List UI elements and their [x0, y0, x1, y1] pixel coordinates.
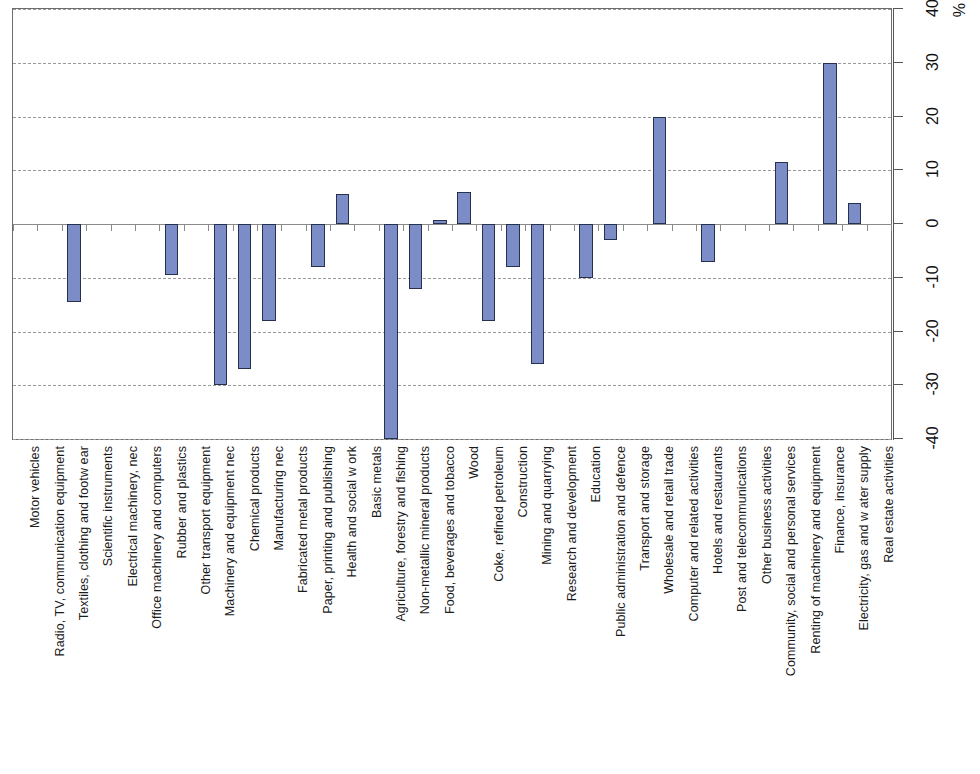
x-axis-tick	[208, 224, 209, 231]
gridline--30	[13, 385, 891, 386]
x-axis-tick	[769, 224, 770, 231]
x-axis-tick	[379, 224, 380, 231]
value-axis-label: 40	[925, 0, 941, 35]
category-label: Construction	[517, 446, 530, 517]
x-axis-tick	[403, 224, 404, 231]
category-label: Computer and related activities	[688, 446, 701, 621]
x-axis-tick	[598, 224, 599, 231]
bar	[384, 224, 397, 439]
category-label: Coke, refined petroleum	[493, 446, 506, 582]
x-axis-tick	[135, 224, 136, 231]
category-label: Other transport equipment	[200, 446, 213, 594]
value-axis-tick	[894, 223, 903, 224]
category-label: Radio, TV, communication equipment	[54, 446, 67, 656]
category-label: Other business activities	[761, 446, 774, 584]
category-label: Hotels and restaurants	[712, 446, 725, 574]
bar	[457, 192, 470, 224]
x-axis-tick	[793, 224, 794, 231]
x-axis-tick	[720, 224, 721, 231]
category-label: Paper, printing and publishing	[322, 446, 335, 614]
x-axis-tick	[452, 224, 453, 231]
category-label: Machinery and equipment nec	[224, 446, 237, 616]
value-axis-label: -30	[925, 357, 941, 411]
value-axis-tick	[894, 8, 903, 9]
category-labels: Motor vehiclesRadio, TV, communication e…	[12, 446, 892, 768]
gridline--40	[13, 439, 891, 440]
x-axis-tick	[428, 224, 429, 231]
x-axis-tick	[672, 224, 673, 231]
category-label: Wood	[468, 446, 481, 479]
category-label: Rubber and plastics	[176, 446, 189, 558]
bar	[604, 224, 617, 240]
x-axis-tick	[574, 224, 575, 231]
bar	[531, 224, 544, 364]
category-label: Electricity, gas and w ater supply	[858, 446, 871, 631]
category-label: Renting of machinery and equipment	[810, 446, 823, 654]
category-label: Public administration and defence	[615, 446, 628, 637]
bar	[848, 203, 861, 225]
bar	[701, 224, 714, 262]
category-label: Electrical machinery, nec	[127, 446, 140, 587]
value-axis-label: 0	[925, 196, 941, 250]
x-axis-tick	[745, 224, 746, 231]
x-axis-tick	[257, 224, 258, 231]
x-axis-tick	[354, 224, 355, 231]
category-label: Agriculture, forestry and fishing	[395, 446, 408, 622]
value-axis-label: 20	[925, 89, 941, 143]
bar	[67, 224, 80, 302]
gridline--10	[13, 278, 891, 279]
category-label: Office machinery and computers	[151, 446, 164, 629]
x-axis-tick	[86, 224, 87, 231]
x-axis-tick	[525, 224, 526, 231]
x-axis-tick	[13, 224, 14, 231]
x-axis-tick	[111, 224, 112, 231]
category-label: Manufacturing nec	[273, 446, 286, 551]
category-label: Research and development	[566, 446, 579, 601]
chart-root: 403020100-10-20-30-40 % Motor vehiclesRa…	[0, 0, 980, 774]
value-axis-label: -10	[925, 250, 941, 304]
x-axis-tick	[184, 224, 185, 231]
value-axis-tick	[894, 277, 903, 278]
category-label: Chemical products	[249, 446, 262, 551]
gridline--20	[13, 332, 891, 333]
gridline-40	[13, 9, 891, 10]
category-label: Motor vehicles	[29, 446, 42, 528]
category-label: Food, beverages and tobacco	[444, 446, 457, 614]
category-label: Scientific instruments	[102, 446, 115, 566]
value-axis-tick	[894, 331, 903, 332]
category-label: Real estate activities	[883, 446, 896, 563]
value-axis-tick	[894, 384, 903, 385]
category-label: Health and social w ork	[346, 446, 359, 578]
x-axis-tick	[306, 224, 307, 231]
value-axis-tick	[894, 169, 903, 170]
bar	[506, 224, 519, 267]
x-axis-tick	[476, 224, 477, 231]
category-label: Mining and quarrying	[541, 446, 554, 565]
bar	[311, 224, 324, 267]
bar	[409, 224, 422, 289]
x-axis-tick	[550, 224, 551, 231]
gridline-30	[13, 63, 891, 64]
value-axis	[893, 8, 897, 440]
bar	[433, 220, 446, 224]
category-label: Fabricated metal products	[297, 446, 310, 593]
bar	[823, 63, 836, 224]
category-label: Finance, insurance	[834, 446, 847, 553]
category-label: Community, social and personal services	[785, 446, 798, 676]
x-axis-tick	[62, 224, 63, 231]
value-axis-label: 30	[925, 35, 941, 89]
category-label: Non-metallic mineral products	[419, 446, 432, 614]
value-axis-tick	[894, 116, 903, 117]
category-label: Basic metals	[371, 446, 384, 518]
x-axis-tick	[501, 224, 502, 231]
x-axis-tick	[818, 224, 819, 231]
category-label: Textiles, clothing and footw ear	[78, 446, 91, 620]
bar	[165, 224, 178, 275]
gridline-10	[13, 170, 891, 171]
x-axis-tick	[891, 224, 892, 231]
x-axis-tick	[281, 224, 282, 231]
value-axis-label: 10	[925, 142, 941, 196]
bar	[775, 162, 788, 224]
bar	[262, 224, 275, 321]
bar	[579, 224, 592, 278]
